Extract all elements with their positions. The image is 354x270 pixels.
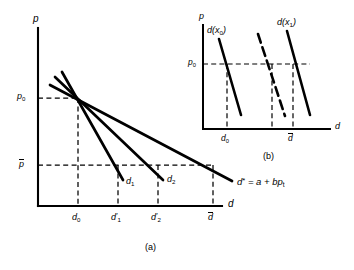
panel-b-curve-label-dx0-close: ) (223, 25, 226, 35)
panel-b-tick-dbar-base: d (288, 133, 293, 143)
economics-demand-figure: p d p0 p d0 d′1 d′2 d d1 d2 d* = a + bpt… (0, 0, 354, 270)
panel-b-tick-p0: p0 (188, 58, 196, 67)
panel-b-curve-dx1 (287, 31, 310, 115)
panel-b-tick-dbar: d (288, 133, 293, 143)
panel-b-tick-d0: d0 (221, 134, 229, 143)
panel-b-graphics (0, 0, 354, 270)
panel-b-curve-label-dx1: d(x1) (277, 18, 296, 27)
panel-b-x-axis-label: d (335, 122, 340, 131)
panel-b-curve-shifted (258, 34, 285, 116)
panel-b-tick-d0-sub: 0 (226, 138, 229, 144)
panel-b-curve-label-dx1-arg: x (285, 17, 290, 27)
panel-b-y-axis-label: p (199, 12, 204, 21)
panel-b-curve-label-dx0: d(x0) (207, 26, 226, 35)
panel-b-tick-p0-sub: 0 (193, 62, 196, 68)
caption-b: (b) (263, 152, 274, 161)
panel-b-curve-label-dx0-arg: x (215, 25, 220, 35)
panel-b-curve-label-dx1-close: ) (293, 17, 296, 27)
panel-b-curve-label-dx1-sub: 1 (290, 21, 293, 28)
panel-b-curve-dx0 (219, 39, 241, 115)
panel-b-curve-label-dx0-sub: 0 (220, 29, 223, 36)
